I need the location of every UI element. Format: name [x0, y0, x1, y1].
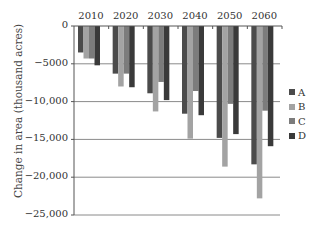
x-tick-label: 2010 — [74, 10, 108, 21]
y-tick-label: −15,000 — [8, 132, 68, 143]
bar-c-2060 — [262, 26, 268, 111]
legend-item-b: B — [289, 100, 306, 115]
x-tick-label: 2060 — [247, 10, 281, 21]
bar-a-2060 — [251, 26, 256, 164]
plot-area — [0, 0, 318, 230]
bar-a-2010 — [78, 26, 84, 52]
legend-item-c: C — [289, 114, 306, 129]
bar-c-2050 — [228, 26, 234, 104]
x-tick-label: 2050 — [213, 10, 247, 21]
x-tick-label: 2030 — [143, 10, 177, 21]
legend-swatch — [289, 104, 295, 110]
legend-swatch — [289, 133, 295, 139]
y-tick-label: −5000 — [8, 57, 68, 68]
legend-swatch — [289, 89, 295, 95]
bar-b-2040 — [188, 26, 194, 139]
bar-a-2050 — [217, 26, 223, 138]
bar-c-2010 — [89, 26, 95, 59]
legend-label: B — [298, 101, 305, 112]
bar-d-2060 — [268, 26, 274, 146]
bar-d-2030 — [164, 26, 170, 100]
bar-d-2010 — [95, 26, 101, 65]
bar-d-2020 — [129, 26, 135, 87]
y-tick-label: −20,000 — [8, 170, 68, 181]
bar-c-2020 — [124, 26, 129, 74]
bar-a-2040 — [182, 26, 188, 114]
bar-a-2030 — [147, 26, 153, 93]
legend-item-d: D — [289, 129, 306, 144]
bar-b-2020 — [118, 26, 124, 86]
bar-d-2040 — [199, 26, 205, 115]
bar-chart: Change in area (thousand acres) 0−5000−1… — [0, 0, 318, 230]
legend: ABCD — [289, 85, 306, 143]
legend-item-a: A — [289, 85, 306, 100]
x-tick-label: 2040 — [178, 10, 212, 21]
bar-b-2010 — [84, 26, 90, 59]
bar-a-2020 — [113, 26, 119, 74]
bar-c-2030 — [158, 26, 164, 82]
y-tick-label: 0 — [8, 19, 68, 30]
bar-d-2050 — [233, 26, 239, 134]
y-tick-label: −10,000 — [8, 95, 68, 106]
legend-swatch — [289, 118, 295, 124]
legend-label: A — [298, 87, 305, 98]
legend-label: C — [298, 116, 306, 127]
x-tick-label: 2020 — [109, 10, 143, 21]
y-tick-label: −25,000 — [8, 208, 68, 219]
bar-b-2030 — [153, 26, 159, 111]
bar-c-2040 — [193, 26, 199, 91]
bar-b-2060 — [257, 26, 263, 198]
bar-b-2050 — [222, 26, 228, 167]
legend-label: D — [298, 130, 306, 141]
